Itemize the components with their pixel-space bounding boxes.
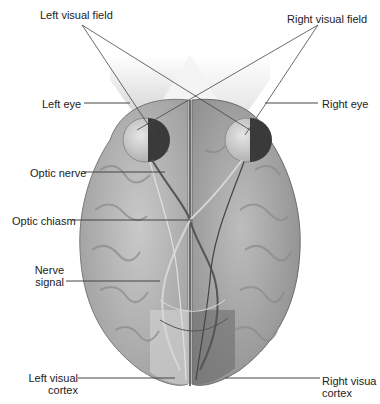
right-visual-cortex-label: Right visua cortex [322, 375, 376, 399]
nerve-signal-label-line1: Nerve [26, 264, 64, 276]
optic-nerve-label: Optic nerve [30, 167, 86, 179]
left-visual-cortex-label-line2: cortex [10, 384, 78, 396]
nerve-signal-label: Nerve signal [26, 264, 64, 288]
left-visual-field-label: Left visual field [40, 9, 113, 21]
right-visual-cortex-label-line1: Right visua [322, 375, 376, 387]
right-eye-label: Right eye [322, 98, 368, 110]
left-eye-label: Left eye [42, 98, 81, 110]
visual-pathway-diagram: Left visual field Right visual field Lef… [0, 0, 380, 404]
brain-illustration [0, 0, 380, 404]
nerve-signal-label-line2: signal [26, 276, 64, 288]
left-visual-cortex-label-line1: Left visual [10, 372, 78, 384]
left-visual-cortex-label: Left visual cortex [10, 372, 78, 396]
optic-chiasm-label: Optic chiasm [12, 215, 76, 227]
right-visual-field-label: Right visual field [287, 13, 367, 25]
right-eye-shape [225, 118, 272, 162]
right-visual-cortex-label-line2: cortex [322, 387, 376, 399]
